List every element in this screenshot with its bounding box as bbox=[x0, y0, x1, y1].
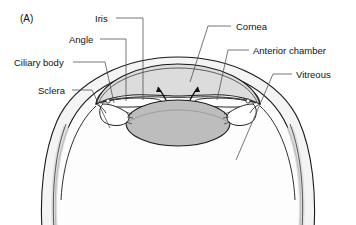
lens bbox=[126, 100, 230, 146]
eye-anatomy-figure: (A) Iris Angle Ciliary body Sclera Corne… bbox=[0, 0, 356, 225]
panel-label: (A) bbox=[20, 14, 33, 24]
eye-cross-section-drawing bbox=[0, 0, 356, 225]
label-cornea: Cornea bbox=[236, 22, 267, 32]
label-sclera: Sclera bbox=[38, 86, 65, 96]
label-vitreous: Vitreous bbox=[296, 70, 331, 80]
label-ciliary-body: Ciliary body bbox=[14, 58, 64, 68]
label-angle: Angle bbox=[69, 35, 93, 45]
label-iris: Iris bbox=[95, 14, 108, 24]
label-anterior-chamber: Anterior chamber bbox=[253, 46, 326, 56]
